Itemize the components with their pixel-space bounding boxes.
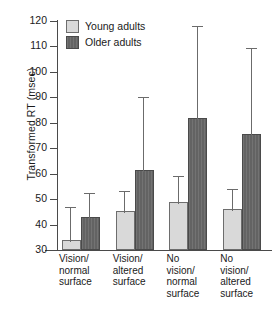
legend-item-young: Young adults [66,19,145,33]
error-bar-stem [197,26,198,120]
chart-legend: Young adults Older adults [66,19,145,51]
error-bar-cap [65,207,76,208]
legend-label-young: Young adults [85,20,145,32]
error-bar-cap [192,26,203,27]
error-bar-stem [89,193,90,220]
legend-item-older: Older adults [66,35,145,49]
error-bar-stem [232,189,233,211]
legend-label-older: Older adults [85,36,142,48]
y-axis-tick [50,148,57,149]
bar-older [135,170,154,250]
x-axis-tick-label: No vision/ normal surface [167,253,219,299]
error-bar-cap [227,189,238,190]
error-bar-stem [70,207,71,243]
y-axis-tick-label: 100 [7,66,47,77]
y-axis-tick-label: 30 [7,244,47,255]
y-axis-tick-label: 70 [7,142,47,153]
x-axis-tick-label: No vision/ altered surface [220,253,272,299]
x-axis-line [45,250,272,251]
y-axis-tick [50,21,57,22]
y-axis-tick-label: 120 [7,15,47,26]
y-axis-tick [50,225,57,226]
y-axis-tick-label: 40 [7,219,47,230]
error-bar-cap [138,97,149,98]
error-bar-stem [178,176,179,204]
bar-young [116,211,135,250]
legend-swatch-older-icon [66,36,79,49]
error-bar-stem [124,191,125,213]
legend-swatch-young-icon [66,20,79,33]
error-bar-cap [84,193,95,194]
error-bar-stem [143,97,144,172]
y-axis-tick-label: 50 [7,193,47,204]
y-axis-tick [50,199,57,200]
y-axis-tick-label: 60 [7,168,47,179]
y-axis-tick [50,97,57,98]
y-axis-tick [50,46,57,47]
bar-young [169,202,188,250]
bar-older [242,134,261,251]
plot-area [57,21,272,250]
y-axis-tick [50,72,57,73]
bar-young [223,209,242,250]
error-bar-cap [173,176,184,177]
bar-older [81,217,100,250]
y-axis-tick-label: 80 [7,117,47,128]
chart-figure: Transformed RT (msec) 304050607080901001… [0,0,279,310]
y-axis-tick [50,174,57,175]
y-axis-tick [50,250,57,251]
error-bar-stem [251,48,252,136]
error-bar-cap [246,48,257,49]
x-axis-tick-label: Vision/ normal surface [59,253,111,288]
bar-older [188,118,207,250]
bar-young [62,240,81,250]
error-bar-cap [119,191,130,192]
x-axis-tick-label: Vision/ altered surface [113,253,165,288]
y-axis-tick-label: 110 [7,40,47,51]
y-axis-tick-label: 90 [7,91,47,102]
y-axis-tick [50,123,57,124]
